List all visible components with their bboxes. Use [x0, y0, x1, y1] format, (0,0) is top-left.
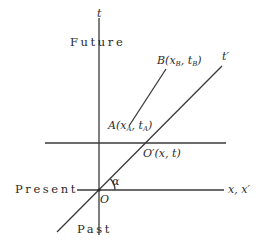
moved-origin-label: O′(x, t): [143, 147, 181, 160]
event-a-label: A(xA, tA): [107, 119, 152, 133]
past-label: Past: [77, 222, 112, 236]
angle-label: α: [112, 175, 120, 188]
origin-dot: [97, 188, 100, 191]
origin-label: O: [100, 193, 109, 206]
time-axis-label: t: [97, 7, 102, 20]
moving-time-axis-label: t′: [222, 50, 229, 63]
worldline-a-b: [129, 69, 166, 126]
event-b-label: B(xB, tB): [156, 54, 202, 68]
moving-time-axis: [57, 66, 222, 232]
future-label: Future: [70, 35, 125, 49]
spacetime-diagram: t t′ x, x′ Future Present Past O α O′(x,…: [0, 0, 260, 249]
present-label: Present: [15, 182, 78, 196]
space-axis-label: x, x′: [228, 183, 250, 196]
